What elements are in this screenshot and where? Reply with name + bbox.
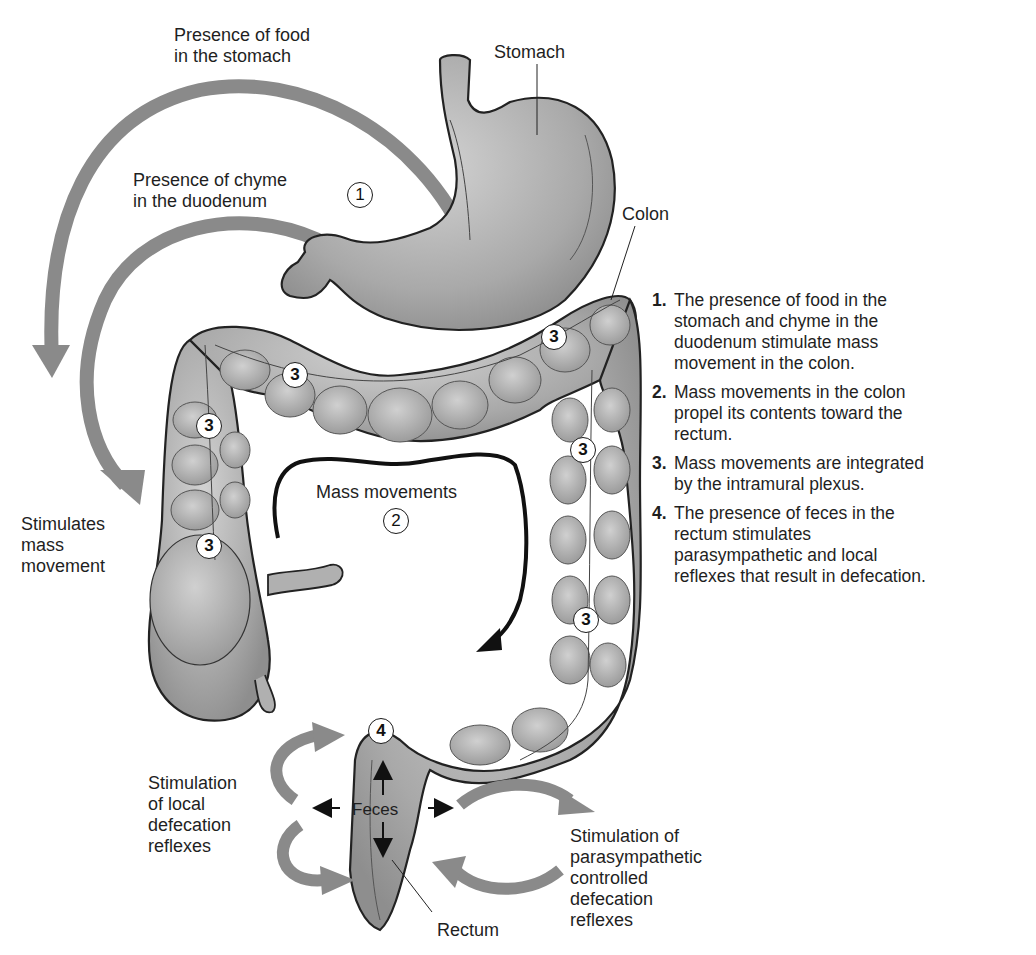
step-item-3: 3. Mass movements are integratedby the i… xyxy=(652,453,1032,495)
label-stimulates-mass-movement: Stimulatesmassmovement xyxy=(21,514,105,577)
label-parasympathetic-reflexes: Stimulation ofparasympatheticcontrolledd… xyxy=(570,826,702,931)
arrow-parasympathetic-in xyxy=(432,856,560,889)
step-number: 3. xyxy=(652,453,667,474)
step-item-1: 1. The presence of food in thestomach an… xyxy=(652,290,1032,374)
step-item-4: 4. The presence of feces in therectum st… xyxy=(652,503,1032,587)
label-feces: Feces xyxy=(352,799,398,820)
step-marker-3-transverse-left: 3 xyxy=(282,362,308,388)
step-marker-1: 1 xyxy=(347,182,373,208)
step-number: 4. xyxy=(652,503,667,524)
label-mass-movements: Mass movements xyxy=(316,482,457,503)
step-number: 1. xyxy=(652,290,667,311)
label-rectum: Rectum xyxy=(437,920,499,941)
label-colon: Colon xyxy=(622,204,669,225)
step-marker-3-descending-upper: 3 xyxy=(570,437,596,463)
step-marker-3-descending-lower: 3 xyxy=(573,607,599,633)
stomach-illustration xyxy=(282,55,615,330)
colon-leader-line xyxy=(611,226,635,300)
arrow-local-reflex-upper xyxy=(276,722,345,800)
step-marker-2: 2 xyxy=(383,508,409,534)
label-chyme-in-duodenum: Presence of chymein the duodenum xyxy=(133,170,287,212)
step-number: 2. xyxy=(652,382,667,403)
steps-list: 1. The presence of food in thestomach an… xyxy=(652,290,1032,595)
step-marker-3-transverse-right: 3 xyxy=(541,324,567,350)
label-food-in-stomach: Presence of foodin the stomach xyxy=(174,25,310,67)
step-marker-3-ascending-upper: 3 xyxy=(196,413,222,439)
step-marker-3-ascending-lower: 3 xyxy=(196,533,222,559)
arrow-local-reflex-lower xyxy=(283,825,355,895)
arrow-parasympathetic-out xyxy=(460,785,595,815)
step-marker-4: 4 xyxy=(368,718,394,744)
label-local-defecation-reflexes: Stimulationof localdefecationreflexes xyxy=(148,773,237,857)
label-stomach: Stomach xyxy=(494,42,565,63)
step-item-2: 2. Mass movements in the colonpropel its… xyxy=(652,382,1032,445)
